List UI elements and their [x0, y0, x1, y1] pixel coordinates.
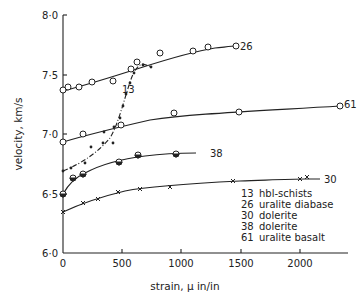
- svg-text:38: 38: [241, 221, 254, 232]
- y-tick-8-0: 8·0: [42, 10, 58, 21]
- y-tick-6-0: 6·0: [42, 248, 58, 259]
- svg-text:uralite basalt: uralite basalt: [259, 232, 325, 243]
- x-tick-1500: 1500: [228, 258, 253, 269]
- x-tick-0: 0: [60, 258, 66, 269]
- svg-text:26: 26: [241, 199, 254, 210]
- x-tick-1000: 1000: [168, 258, 193, 269]
- x-axis-label: strain, μ in/in: [150, 280, 219, 292]
- svg-text:61: 61: [241, 232, 254, 243]
- series-38: 38: [60, 148, 223, 197]
- svg-text:hbl-schists: hbl-schists: [259, 188, 312, 199]
- legend: 13 hbl-schists 26 uralite diabase 30 dol…: [241, 188, 333, 243]
- series-26: 26: [60, 41, 253, 93]
- y-tick-7-0: 7·0: [42, 129, 58, 140]
- svg-text:uralite diabase: uralite diabase: [259, 199, 333, 210]
- legend-item-61: 61 uralite basalt: [241, 232, 325, 243]
- velocity-strain-chart: 8·0 7·5 7·0 6·5 6·0 0 500 1000 1500 2000…: [0, 0, 358, 307]
- curve-label-61: 61: [344, 99, 357, 110]
- y-axis-label: velocity, km/s: [12, 97, 24, 170]
- y-tick-6-5: 6·5: [42, 189, 58, 200]
- x-tick-2000: 2000: [287, 258, 312, 269]
- series-61: 61: [60, 99, 357, 145]
- legend-item-26: 26 uralite diabase: [241, 199, 333, 210]
- svg-text:30: 30: [241, 210, 254, 221]
- x-tick-500: 500: [112, 258, 131, 269]
- svg-text:dolerite: dolerite: [259, 221, 297, 232]
- axes: [63, 15, 348, 253]
- svg-text:dolerite: dolerite: [259, 210, 297, 221]
- y-tick-7-5: 7·5: [42, 70, 58, 81]
- legend-item-13: 13 hbl-schists: [241, 188, 312, 199]
- curve-label-30: 30: [324, 174, 337, 185]
- legend-item-38: 38 dolerite: [241, 221, 297, 232]
- y-tick-labels: 8·0 7·5 7·0 6·5 6·0: [42, 10, 58, 259]
- legend-item-30: 30 dolerite: [241, 210, 297, 221]
- curve-label-13: 13: [122, 84, 135, 95]
- curve-label-26: 26: [240, 41, 253, 52]
- svg-text:13: 13: [241, 188, 254, 199]
- x-tick-labels: 0 500 1000 1500 2000: [60, 258, 313, 269]
- curve-label-38: 38: [210, 148, 223, 159]
